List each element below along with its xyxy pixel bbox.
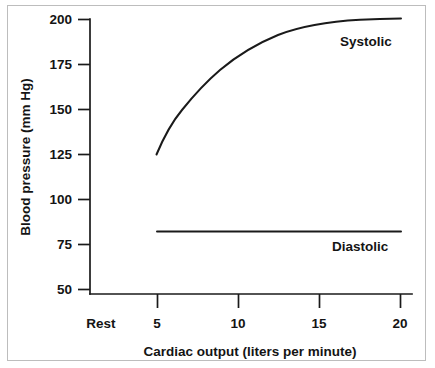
diastolic-series-label: Diastolic [332, 239, 389, 254]
y-tick-label-75: 75 [57, 237, 73, 252]
y-tick-label-50: 50 [57, 282, 72, 297]
x-tick-labels-group: 5 10 15 20 [153, 316, 407, 331]
chart-figure: 200 175 150 125 100 75 50 5 10 15 20 Res… [0, 0, 435, 368]
y-tick-labels-group: 200 175 150 125 100 75 50 [49, 12, 72, 297]
x-tick-label-5: 5 [153, 316, 161, 331]
y-tick-label-150: 150 [49, 102, 72, 117]
x-tick-label-10: 10 [230, 316, 245, 331]
y-ticks-group [78, 20, 90, 290]
y-tick-label-175: 175 [49, 57, 72, 72]
y-axis-title: Blood pressure (mm Hg) [18, 78, 33, 236]
systolic-series-label: Systolic [340, 34, 392, 49]
rest-axis-annotation: Rest [86, 316, 116, 331]
y-tick-label-100: 100 [49, 192, 72, 207]
x-ticks-group [158, 294, 401, 308]
x-axis-title: Cardiac output (liters per minute) [143, 344, 356, 359]
y-tick-label-125: 125 [49, 147, 72, 162]
x-tick-label-15: 15 [311, 316, 327, 331]
y-tick-label-200: 200 [49, 12, 72, 27]
x-tick-label-20: 20 [392, 316, 407, 331]
chart-plot-area: 200 175 150 125 100 75 50 5 10 15 20 Res… [0, 0, 435, 368]
